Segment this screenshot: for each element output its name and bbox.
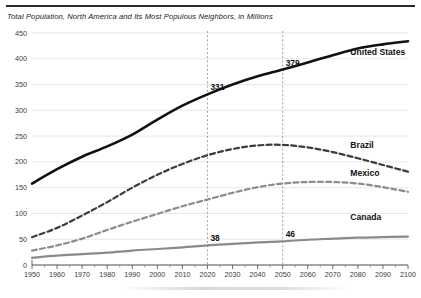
x-tick-label: 2060 bbox=[300, 270, 316, 279]
x-tick-label: 2030 bbox=[225, 270, 241, 279]
y-tick-label: 200 bbox=[15, 157, 27, 166]
chart-page: Total Population, North America and Its … bbox=[0, 0, 421, 298]
x-tick-label: 2070 bbox=[325, 270, 341, 279]
series-label: United States bbox=[350, 47, 405, 57]
series-line bbox=[32, 237, 408, 258]
x-tick-label: 2100 bbox=[400, 270, 416, 279]
y-tick-label: 350 bbox=[15, 80, 27, 89]
line-chart-svg: 050100150200250300350400450 195019601970… bbox=[0, 0, 421, 298]
y-tick-label: 50 bbox=[19, 235, 27, 244]
x-tick-label: 1970 bbox=[74, 270, 90, 279]
series-label: Mexico bbox=[350, 168, 379, 178]
series-labels-group: United StatesBrazilMexicoCanada bbox=[350, 47, 405, 222]
x-tick-label: 1950 bbox=[24, 270, 40, 279]
y-tick-label: 150 bbox=[15, 183, 27, 192]
chart-plot-area: 050100150200250300350400450 195019601970… bbox=[0, 0, 421, 298]
annotations-group: 3313793846 bbox=[210, 58, 300, 244]
x-tick-label: 2050 bbox=[275, 270, 291, 279]
axes-group bbox=[32, 260, 408, 265]
series-line bbox=[32, 145, 408, 237]
x-axis-labels-group: 1950196019701980199020002010202020302040… bbox=[24, 270, 416, 279]
page-artifact bbox=[120, 287, 350, 290]
y-tick-label: 300 bbox=[15, 106, 27, 115]
y-tick-label: 0 bbox=[23, 261, 27, 270]
x-tick-label: 1960 bbox=[49, 270, 65, 279]
series-label: Brazil bbox=[350, 140, 373, 150]
x-tick-label: 1980 bbox=[99, 270, 115, 279]
x-tick-label: 2000 bbox=[149, 270, 165, 279]
data-point-label: 331 bbox=[210, 82, 224, 92]
data-point-label: 379 bbox=[286, 58, 300, 68]
x-tick-label: 2020 bbox=[199, 270, 215, 279]
x-tick-label: 2090 bbox=[375, 270, 391, 279]
data-point-label: 38 bbox=[210, 233, 220, 243]
y-tick-label: 400 bbox=[15, 54, 27, 63]
x-tick-label: 2040 bbox=[250, 270, 266, 279]
y-tick-label: 450 bbox=[15, 29, 27, 38]
data-point-label: 46 bbox=[286, 229, 296, 239]
reference-lines-group bbox=[207, 31, 282, 265]
x-tick-label: 1990 bbox=[124, 270, 140, 279]
y-axis-labels-group: 050100150200250300350400450 bbox=[15, 29, 27, 270]
series-label: Canada bbox=[350, 212, 381, 222]
ticks-group bbox=[32, 265, 408, 269]
y-tick-label: 100 bbox=[15, 209, 27, 218]
x-tick-label: 2080 bbox=[350, 270, 366, 279]
y-tick-label: 250 bbox=[15, 132, 27, 141]
x-tick-label: 2010 bbox=[174, 270, 190, 279]
